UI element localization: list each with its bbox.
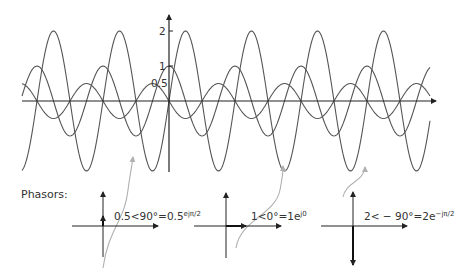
phasor-diagram-2 (194, 193, 281, 258)
waveform-plot (0, 0, 469, 279)
pointer-arrow-3 (343, 167, 365, 197)
phasor-label-2-main: 1<0°=1e (251, 210, 300, 222)
phasor-label-3-main: 2< − 90°=2e (364, 210, 436, 222)
phasor-label-3: 2< − 90°=2e−jπ/2 (364, 211, 454, 222)
y-tick-label-1: 1 (159, 61, 166, 72)
y-tick-label-2: 2 (159, 26, 166, 37)
y-tick-label-0-5: 0.5 (151, 78, 168, 89)
pointer-arrow-2 (236, 166, 283, 248)
phasor-label-1: 0.5<90°=0.5ejπ/2 (114, 211, 201, 222)
phasor-label-1-main: 0.5<90°=0.5 (114, 210, 184, 222)
phasor-diagram-3 (321, 192, 407, 265)
phasor-diagram-1 (72, 192, 158, 257)
phasor-label-3-exp: −jπ/2 (436, 210, 455, 218)
phasor-label-2: 1<0°=1ej0 (251, 211, 307, 222)
phasor-label-2-exp: j0 (300, 210, 306, 218)
phasor-label-1-exp: ejπ/2 (184, 210, 201, 218)
phasors-heading: Phasors: (21, 189, 68, 200)
